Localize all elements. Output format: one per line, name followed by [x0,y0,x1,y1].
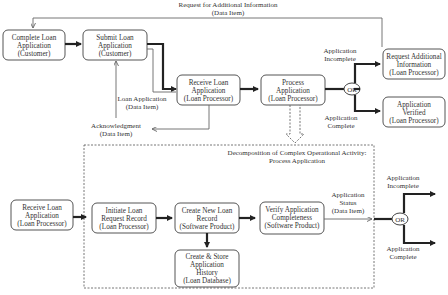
node-receive-loan-application-top[interactable]: Receive Loan Application (Loan Processor… [177,75,240,105]
node-text: (Customer) [18,50,51,58]
node-text: Process [282,79,304,87]
or-label: OR [395,216,405,224]
node-text: Verified [402,109,426,117]
top-complete-label-2: Complete [327,122,354,130]
loan-application-label-1: Loan Application [118,95,167,103]
node-application-verified[interactable]: Application Verified (Loan Processor) [383,97,445,127]
node-text: Complete Loan [12,34,57,42]
data-flow-line [147,49,176,92]
node-text: (Customer) [99,50,132,58]
bottom-complete-label-2: Complete [389,253,416,261]
node-text: Application [192,87,226,95]
node-text: (Loan Processor) [389,69,439,77]
node-text: Receive Loan [22,204,62,212]
node-text: Completeness [272,214,313,222]
loan-process-diagram: Request for Additional Information (Data… [0,0,448,295]
node-text: History [196,269,218,277]
acknowledgment-label-2: (Data Item) [100,130,133,138]
feedback-label-line1: Request for Additional Information [179,1,278,9]
top-incomplete-label-1: Application [323,47,357,55]
node-create-store-application-history[interactable]: Create & Store Application History (Loan… [175,250,239,287]
node-receive-loan-application-bottom[interactable]: Receive Loan Application (Loan Processor… [11,200,73,230]
bottom-complete-label-1: Application [386,245,420,253]
node-verify-application-completeness[interactable]: Verify Application Completeness (Softwar… [260,202,324,234]
node-text: Verify Application [265,206,319,214]
node-text: Receive Loan [189,79,229,87]
node-text: (Loan Processor) [99,223,149,231]
acknowledgment-flow [152,105,209,129]
node-text: (Software Product) [180,223,235,231]
app-status-label-1: Application [331,191,365,199]
top-incomplete-label-2: Incomplete [324,55,356,63]
node-process-application[interactable]: Process Application (Loan Processor) [261,75,325,105]
node-text: (Loan Processor) [389,117,439,125]
node-text: Request Record [101,215,147,223]
acknowledgment-label-1: Acknowledgment [91,122,141,130]
node-text: Submit Loan [96,34,134,42]
node-submit-loan-application[interactable]: Submit Loan Application (Customer) [83,30,147,60]
complete-arrow [355,95,380,111]
flow-arrow [147,44,176,89]
top-complete-label-1: Application [324,114,358,122]
bottom-incomplete-label-1: Application [386,174,420,182]
feedback-label-line2: (Data Item) [212,9,245,17]
node-text: Application [98,42,132,50]
complete-arrow [404,225,435,243]
node-create-new-loan-record[interactable]: Create New Loan Record (Software Product… [175,203,239,233]
or-gate-bottom: OR [392,213,408,225]
node-text: Create New Loan [182,207,233,215]
node-text: (Loan Processor) [184,95,234,103]
node-text: Record [197,215,218,223]
loan-application-label-2: (Data Item) [126,103,159,111]
decomposition-arrow [286,105,304,143]
incomplete-arrow [404,194,435,213]
decomposition-title-1: Decomposition of Complex Operational Act… [228,149,367,157]
node-text: Application [190,261,224,269]
node-text: (Loan Processor) [268,95,318,103]
node-text: Application [276,87,310,95]
node-text: (Loan Processor) [17,220,67,228]
bottom-incomplete-label-2: Incomplete [387,182,419,190]
node-text: Initiate Loan [106,207,143,215]
node-text: Application [25,212,59,220]
node-request-additional-information[interactable]: Request Additional Information (Loan Pro… [383,49,445,79]
node-initiate-loan-request-record[interactable]: Initiate Loan Request Record (Loan Proce… [92,203,156,233]
node-text: Application [397,101,431,109]
decomposition-title-2: Process Application [269,157,325,165]
node-text: (Loan Database) [183,277,231,285]
incomplete-arrow [355,64,380,83]
node-text: (Software Product) [265,222,320,230]
node-complete-loan-application[interactable]: Complete Loan Application (Customer) [3,30,65,60]
node-text: Create & Store [185,253,228,261]
node-text: Information [397,61,432,69]
node-text: Application [17,42,51,50]
node-text: Request Additional [386,53,441,61]
app-status-label-3: (Data Item) [332,207,365,215]
app-status-label-2: Status [339,199,356,207]
